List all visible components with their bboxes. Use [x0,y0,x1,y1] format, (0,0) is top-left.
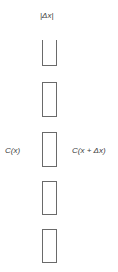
box-4 [42,181,57,215]
c-of-x-label: C(x) [5,147,20,155]
box-2 [42,82,57,117]
open-top-box [42,40,57,66]
c-of-x-plus-delta-x-label: C(x + Δx) [72,147,106,155]
delta-x-label: |Δx| [40,12,54,20]
box-3 [42,132,57,167]
box-5 [42,229,57,263]
